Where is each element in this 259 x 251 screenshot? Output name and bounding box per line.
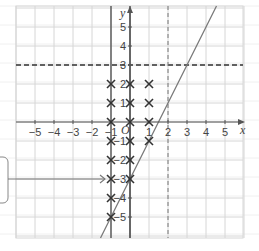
y-tick-label: 1: [120, 97, 126, 109]
x-tick-label: −5: [29, 126, 42, 138]
x-tick-label: −2: [86, 126, 99, 138]
x-axis-label: x: [239, 123, 246, 137]
y-tick-label: −1: [113, 135, 126, 147]
y-tick-label: 3: [120, 59, 126, 71]
x-tick-label: 1: [146, 126, 152, 138]
y-tick-label: 5: [120, 21, 126, 33]
y-axis-label: y: [119, 6, 126, 20]
y-tick-label: −4: [113, 192, 126, 204]
coordinate-grid: xyO −5−4−3−2−11234554321−1−2−3−4−5: [0, 0, 259, 251]
y-tick-label: −5: [113, 211, 126, 223]
x-tick-label: 4: [203, 126, 209, 138]
callout-box: [0, 157, 8, 203]
y-tick-label: 4: [120, 40, 126, 52]
x-tick-label: 2: [165, 126, 171, 138]
y-tick-label: −2: [113, 154, 126, 166]
y-tick-label: 2: [120, 78, 126, 90]
x-tick-label: 5: [222, 126, 228, 138]
x-tick-label: −4: [48, 126, 61, 138]
x-tick-label: −3: [67, 126, 80, 138]
x-tick-label: 3: [184, 126, 190, 138]
y-axis-arrow-icon: [127, 6, 133, 13]
y-tick-label: −3: [113, 173, 126, 185]
